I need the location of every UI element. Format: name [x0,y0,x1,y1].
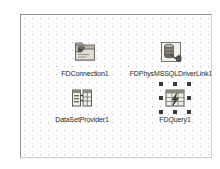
component-caption: FDPhysMSSQLDriverLink1 [123,70,212,78]
selection-handle-w[interactable] [159,96,163,100]
component-fdconnection1[interactable]: FDConnection1 [37,39,133,78]
data-module-design-surface[interactable]: FDConnection1 [20,14,212,158]
fdphysmssqldriverlink-icon [159,40,183,64]
component-fdphysmssqldriverlink1[interactable]: FDPhysMSSQLDriverLink1 [123,39,212,78]
selection-handle-se[interactable] [187,110,191,114]
component-icon-wrap[interactable] [72,39,98,65]
selection-handle-sw[interactable] [159,110,163,114]
component-icon-wrap[interactable] [162,85,188,111]
selection-handle-e[interactable] [187,96,191,100]
fdconnection-icon [73,40,97,64]
component-caption: FDQuery1 [127,116,212,124]
fdquery-icon [163,86,187,110]
component-caption: FDConnection1 [37,70,133,78]
component-datasetprovider1[interactable]: DataSetProvider1 [34,85,130,124]
component-icon-wrap[interactable] [158,39,184,65]
selection-handle-s[interactable] [173,110,177,114]
component-icon-wrap[interactable] [69,85,95,111]
datasetprovider-icon [70,86,94,110]
selection-handle-ne[interactable] [187,82,191,86]
selection-handle-nw[interactable] [159,82,163,86]
screenshot-root: FDConnection1 [0,0,220,169]
component-caption: DataSetProvider1 [34,116,130,124]
component-fdquery1[interactable]: FDQuery1 [127,85,212,124]
selection-handle-n[interactable] [173,82,177,86]
